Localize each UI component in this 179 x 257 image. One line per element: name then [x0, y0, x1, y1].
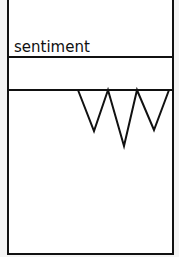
- triangle-markers: [0, 0, 179, 257]
